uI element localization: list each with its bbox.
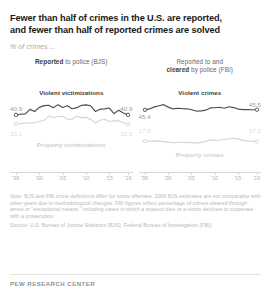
infographic-page: Fewer than half of crimes in the U.S. ar… [0, 0, 271, 294]
right-violent-start-value: 45.4 [139, 113, 151, 120]
left-property-start-value: 33.1 [10, 130, 22, 137]
panel-right-header-rest: by police (FBI) [189, 66, 233, 73]
left-chart: Violent victimizations 40.9 40.9 33.1 32… [10, 75, 133, 171]
panel-right-header-line1: Reported to and [176, 58, 223, 65]
left-axis-line [10, 172, 133, 173]
footer-divider [10, 274, 261, 275]
axis-tick-label: '19 [124, 175, 131, 181]
axis-tick-label: '05 [59, 175, 66, 181]
brand-footer: PEW RESEARCH CENTER [10, 280, 95, 287]
axis-tick-label: '10 [211, 175, 218, 181]
axis-tick-label: '15 [234, 175, 241, 181]
panel-left-header: Reported to police (BJS) [10, 58, 133, 75]
axis-tick-label: '19 [253, 175, 260, 181]
left-violent-series-label: Violent victimizations [10, 89, 133, 96]
right-property-start-value: 17.6 [139, 127, 151, 134]
right-property-end-value: 17.2 [249, 127, 261, 134]
panel-right-header-bold: cleared [166, 66, 189, 73]
axis-tick-label: '95 [141, 175, 148, 181]
note-text: Note: BJS and FBI crime definitions diff… [10, 193, 261, 219]
panel-reported-to-police: Reported to police (BJS) Violent victimi… [10, 58, 133, 183]
left-property-end-value: 32.5 [120, 130, 132, 137]
axis-tick-label: '95 [12, 175, 19, 181]
panel-left-header-bold: Reported [35, 58, 63, 65]
axis-tick-label: '05 [188, 175, 195, 181]
axis-tick-label: '00 [164, 175, 171, 181]
chart-subtitle: % of crimes ... [10, 43, 261, 50]
axis-tick-label: '15 [106, 175, 113, 181]
left-violent-end-value: 40.9 [120, 105, 132, 112]
panel-right-header: Reported to and cleared by police (FBI) [139, 58, 262, 75]
panel-left-header-rest: to police (BJS) [63, 58, 107, 65]
right-property-series-label: Property crimes [139, 151, 262, 158]
axis-tick-label: '00 [36, 175, 43, 181]
right-axis: '95'00'05'10'15'19 [139, 172, 262, 183]
right-violent-series-label: Violent crimes [139, 89, 262, 96]
notes-block: Note: BJS and FBI crime definitions diff… [10, 193, 261, 228]
left-violent-start-value: 40.9 [10, 105, 22, 112]
title-line-1: Fewer than half of crimes in the U.S. ar… [10, 13, 222, 23]
axis-tick-label: '10 [82, 175, 89, 181]
left-axis: '95'00'05'10'15'19 [10, 172, 133, 183]
right-chart: Violent crimes 45.4 45.5 17.6 17.2 Prope… [139, 75, 262, 171]
left-property-series-label: Property victimizations [10, 141, 133, 148]
chart-panels: Reported to police (BJS) Violent victimi… [10, 58, 261, 183]
title-line-2: and fewer than half of reported crimes a… [10, 25, 261, 37]
panel-cleared-by-police: Reported to and cleared by police (FBI) … [139, 58, 262, 183]
right-axis-line [139, 172, 262, 173]
right-violent-end-value: 45.5 [249, 101, 261, 108]
page-title: Fewer than half of crimes in the U.S. ar… [10, 13, 261, 36]
source-text: Source: U.S. Bureau of Justice Statistic… [10, 222, 261, 229]
